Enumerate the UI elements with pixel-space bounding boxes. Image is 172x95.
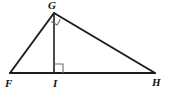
right-angle-marker-i <box>54 64 63 73</box>
vertex-label-i: I <box>53 78 57 89</box>
vertex-label-h: H <box>152 77 161 88</box>
vertex-label-f: F <box>5 78 12 89</box>
segment-fg <box>10 13 54 73</box>
figure-canvas <box>0 0 172 95</box>
segment-gh <box>54 13 155 73</box>
right-angle-marker-g <box>51 19 60 25</box>
geometry-figure: G F I H <box>0 0 172 95</box>
vertex-label-g: G <box>48 0 56 11</box>
